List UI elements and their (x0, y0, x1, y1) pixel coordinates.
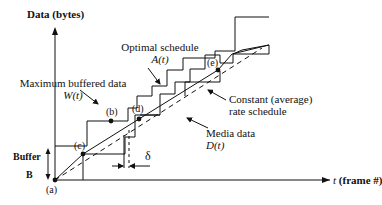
delta-label: δ (145, 150, 151, 162)
buffer-arrow (46, 148, 51, 180)
point-b-label: (b) (106, 107, 118, 117)
point-a-label: (a) (46, 185, 57, 195)
point-c-label: (c) (74, 141, 85, 151)
y-axis-label: Data (bytes) (27, 9, 84, 20)
constant-rate-label: Constant (average) rate schedule (229, 94, 312, 117)
point-a-marker (53, 178, 58, 183)
optimal-schedule-label: Optimal schedule A(t) (115, 42, 205, 65)
point-e-marker (216, 68, 221, 73)
buffer-label: Buffer (13, 152, 41, 162)
optimal-schedule-pointer (148, 68, 160, 84)
x-axis (55, 177, 330, 183)
media-data-label: Media data D(t) (206, 128, 255, 151)
point-c-marker (81, 152, 86, 157)
buffer-symbol: B (26, 170, 33, 180)
media-data-pointer (187, 118, 208, 128)
max-buffered-label: Maximum buffered data W(t) (18, 78, 128, 101)
x-axis-label: t (frame #) (333, 175, 382, 186)
y-axis (52, 27, 58, 180)
x-axis-variable: t (333, 174, 336, 186)
x-axis-unit: (frame #) (339, 174, 382, 186)
point-d-label: (d) (132, 104, 144, 114)
point-d-marker (137, 117, 142, 122)
point-e-label: (e) (207, 58, 218, 68)
point-b-marker (109, 119, 114, 124)
constant-rate-pointer (208, 90, 226, 100)
